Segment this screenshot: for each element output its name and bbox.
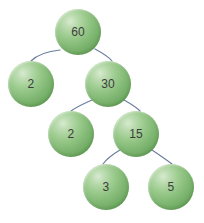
tree-node: 5 [148, 164, 194, 210]
tree-node-label: 60 [71, 26, 85, 38]
tree-node: 15 [113, 111, 159, 157]
tree-node: 2 [48, 111, 94, 157]
tree-node: 60 [55, 9, 101, 55]
tree-edge [95, 49, 112, 61]
tree-node: 2 [8, 61, 54, 107]
tree-edge [71, 100, 92, 111]
tree-node-label: 5 [168, 181, 175, 193]
binary-tree-figure: 6023021535 [0, 0, 204, 223]
tree-edge [152, 150, 172, 164]
tree-edge [31, 50, 60, 61]
tree-node-label: 15 [129, 128, 143, 140]
tree-node: 3 [83, 164, 129, 210]
tree-node-label: 30 [101, 78, 115, 90]
tree-edge [124, 100, 140, 111]
tree-node-label: 3 [103, 181, 110, 193]
tree-node-label: 2 [68, 128, 75, 140]
tree-node: 30 [85, 61, 131, 107]
tree-node-label: 2 [28, 78, 35, 90]
tree-edge [103, 150, 120, 164]
